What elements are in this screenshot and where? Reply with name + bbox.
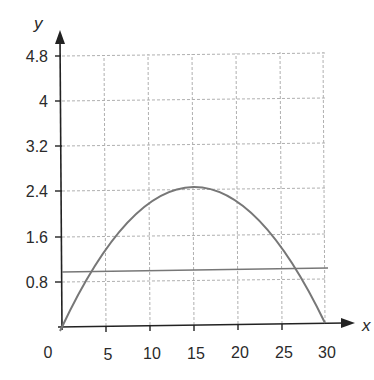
svg-text:25: 25 xyxy=(275,344,293,361)
svg-text:1.6: 1.6 xyxy=(26,229,48,246)
svg-text:20: 20 xyxy=(231,344,249,361)
svg-text:30: 30 xyxy=(318,344,336,361)
svg-text:10: 10 xyxy=(143,345,161,362)
ticks xyxy=(55,56,282,332)
y-axis-arrow-icon xyxy=(55,30,65,44)
x-axis-arrow-icon xyxy=(341,318,355,328)
horizontal-line xyxy=(62,268,328,272)
axes xyxy=(58,38,345,330)
y-axis xyxy=(60,38,62,330)
svg-text:5: 5 xyxy=(104,346,113,363)
x-axis xyxy=(58,323,345,327)
svg-text:0: 0 xyxy=(44,344,53,361)
x-tick-labels: 0 5 10 15 20 25 30 xyxy=(44,344,336,363)
svg-text:15: 15 xyxy=(187,345,205,362)
svg-text:3.2: 3.2 xyxy=(26,138,48,155)
svg-text:4: 4 xyxy=(39,93,48,110)
chart: 0.8 1.6 2.4 3.2 4 4.8 0 5 10 15 20 25 30… xyxy=(0,0,374,380)
x-axis-label: x xyxy=(361,316,371,335)
grid xyxy=(62,52,325,326)
svg-text:2.4: 2.4 xyxy=(26,183,48,200)
svg-text:0.8: 0.8 xyxy=(26,274,48,291)
parabola-curve xyxy=(60,187,325,331)
y-tick-labels: 0.8 1.6 2.4 3.2 4 4.8 xyxy=(26,48,48,291)
y-axis-label: y xyxy=(33,14,44,33)
svg-text:4.8: 4.8 xyxy=(26,48,48,65)
